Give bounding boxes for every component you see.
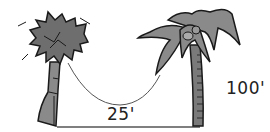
height-label: 100' xyxy=(226,78,265,98)
right-trunk xyxy=(190,45,203,126)
distance-label: 25' xyxy=(107,104,135,124)
left-palm-tree xyxy=(18,12,90,126)
palm-trees-illustration xyxy=(0,0,270,132)
coconut xyxy=(183,32,193,40)
left-foliage xyxy=(30,12,88,64)
rope xyxy=(68,63,160,105)
right-palm-tree xyxy=(138,9,240,126)
coconut xyxy=(192,26,200,34)
